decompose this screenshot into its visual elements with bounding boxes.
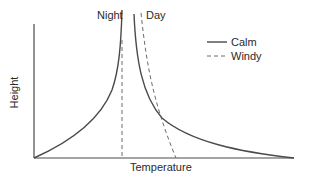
day-windy-line — [141, 13, 176, 158]
legend-item-windy: Windy — [207, 49, 262, 63]
night-calm-curve — [34, 10, 122, 158]
x-axis-label: Temperature — [130, 161, 192, 174]
legend: Calm Windy — [207, 35, 262, 63]
legend-label-windy: Windy — [231, 50, 262, 62]
dashed-line-icon — [207, 54, 227, 58]
chart-canvas — [0, 0, 309, 180]
day-label: Day — [146, 9, 166, 22]
legend-item-calm: Calm — [207, 35, 262, 49]
night-label: Night — [97, 9, 123, 22]
solid-line-icon — [207, 40, 227, 44]
y-axis-label: Height — [8, 75, 21, 111]
legend-label-calm: Calm — [231, 36, 257, 48]
